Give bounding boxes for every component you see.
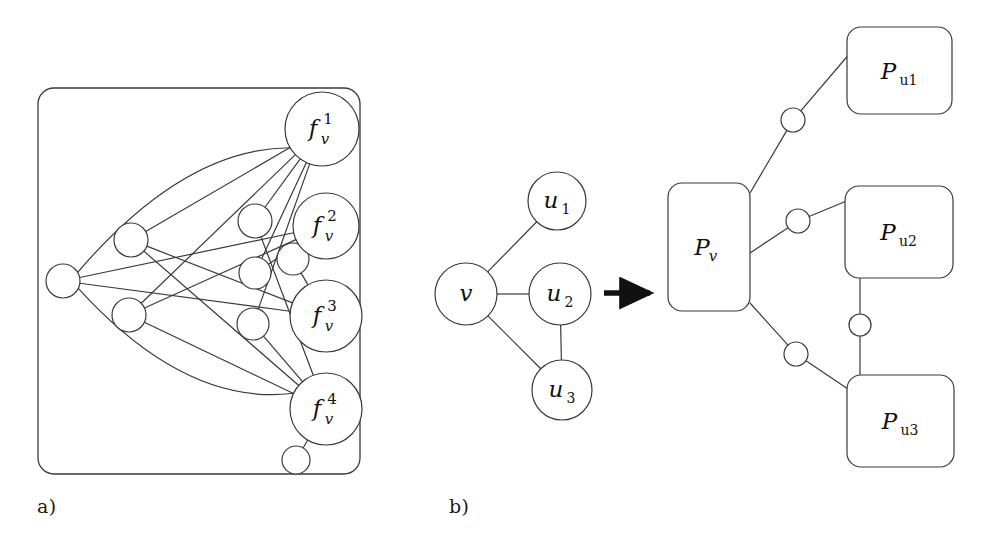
panel-a-group: f1vf2vf3vf4v xyxy=(38,88,362,474)
panel-a-small-node xyxy=(46,264,80,298)
node-label-subscript: v xyxy=(325,410,334,428)
figure-root: a) b) f1vf2vf3vf4v vu1u2u3 PvPu1Pu2Pu3 xyxy=(0,0,983,557)
box-label-subscript: u1 xyxy=(900,72,918,88)
panel-b-left-edge xyxy=(488,222,537,272)
panel-a-edge xyxy=(263,336,302,382)
panel-a-small-node xyxy=(114,223,148,257)
node-label-superscript: 4 xyxy=(327,390,337,408)
panel-a-edge xyxy=(144,240,295,308)
node-label-subscript: v xyxy=(325,317,334,335)
node-label-superscript: 2 xyxy=(327,207,337,225)
panel-b-node-u2: u2 xyxy=(529,263,591,325)
panel-b-connector-node xyxy=(781,108,805,132)
node-circle xyxy=(290,373,362,445)
node-label-subscript: v xyxy=(321,130,330,148)
panel-b-right-boxes: PvPu1Pu2Pu3 xyxy=(668,27,954,467)
panel-b-node-u3: u3 xyxy=(532,360,592,420)
node-label-subscript: v xyxy=(325,227,334,245)
box-outline xyxy=(847,27,952,114)
box-label: P xyxy=(880,58,897,84)
panel-a-small-node xyxy=(238,204,272,238)
node-circle xyxy=(285,92,359,166)
panel-a-small-node xyxy=(237,308,269,340)
panel-a-big-node-f2: f2v xyxy=(293,193,359,259)
panel-b-right-edge xyxy=(806,361,851,391)
box-outline xyxy=(845,186,953,278)
panel-b-left-edge xyxy=(561,325,562,360)
node-label-superscript: 3 xyxy=(327,297,337,315)
panel-a-edge xyxy=(144,251,299,385)
box-label: P xyxy=(881,408,898,434)
box-label: P xyxy=(693,234,710,260)
panel-a-nodes: f1vf2vf3vf4v xyxy=(46,92,362,474)
panel-b-left-nodes: vu1u2u3 xyxy=(435,172,592,420)
panel-a-edges xyxy=(78,148,314,448)
box-label: P xyxy=(879,219,896,245)
panel-a-big-node-f3: f3v xyxy=(290,280,362,352)
panel-b-box-Pu1: Pu1 xyxy=(847,27,952,114)
node-circle xyxy=(290,280,362,352)
panel-a-big-node-f4: f4v xyxy=(290,373,362,445)
diagram-canvas: f1vf2vf3vf4v vu1u2u3 PvPu1Pu2Pu3 xyxy=(0,0,983,557)
panel-b-connector-node xyxy=(786,209,810,233)
panel-a-big-node-f1: f1v xyxy=(285,92,359,166)
node-label-subscript: 1 xyxy=(562,201,571,217)
node-label: v xyxy=(460,280,473,306)
panel-b-right-edge xyxy=(750,130,787,193)
node-label: u xyxy=(547,280,562,306)
panel-b-right-edge xyxy=(750,303,788,345)
panel-a-edge xyxy=(141,155,295,304)
panel-b-node-u1: u1 xyxy=(528,172,586,230)
panel-b-right-edge xyxy=(801,52,851,111)
panel-a-small-node xyxy=(282,446,310,474)
panel-a-caption: a) xyxy=(37,495,56,517)
node-label-subscript: 3 xyxy=(567,390,576,406)
box-label-subscript: u3 xyxy=(901,422,919,438)
box-label-subscript: v xyxy=(709,247,718,265)
panel-b-left-edge xyxy=(488,316,541,369)
panel-b-box-Pu3: Pu3 xyxy=(847,375,954,467)
panel-b-group: vu1u2u3 PvPu1Pu2Pu3 xyxy=(435,27,954,467)
panel-b-right-edge xyxy=(809,200,849,216)
box-label-subscript: u2 xyxy=(899,233,917,249)
panel-b-node-v: v xyxy=(435,263,497,325)
node-label: u xyxy=(544,187,559,213)
panel-b-box-Pv: Pv xyxy=(668,183,750,311)
node-label-subscript: 2 xyxy=(565,294,574,310)
box-outline xyxy=(847,375,954,467)
panel-a-edge xyxy=(303,440,308,448)
node-label: u xyxy=(549,376,564,402)
panel-b-right-edge xyxy=(750,228,788,253)
panel-a-edge xyxy=(301,273,308,285)
panel-a-small-node xyxy=(112,298,146,332)
panel-b-connector-node xyxy=(784,342,808,366)
panel-b-connector-node xyxy=(849,314,871,336)
panel-a-edge xyxy=(144,322,293,393)
node-circle xyxy=(293,193,359,259)
panel-a-small-node xyxy=(239,257,271,289)
panel-b-caption: b) xyxy=(449,495,469,517)
panel-b-box-Pu2: Pu2 xyxy=(845,186,953,278)
node-label-superscript: 1 xyxy=(323,110,333,128)
